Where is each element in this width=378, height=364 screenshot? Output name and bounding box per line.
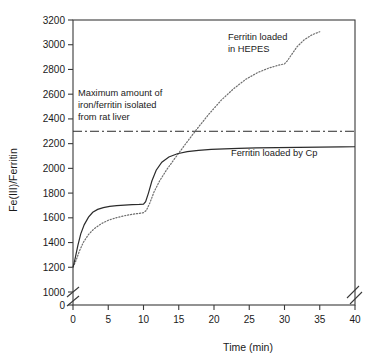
y-tick-label-2000: 2000 xyxy=(43,163,66,174)
annot-max-line3: from rat liver xyxy=(78,112,130,122)
y-tick-label-0: 0 xyxy=(59,300,65,311)
y-tick-label-2800: 2800 xyxy=(43,64,66,75)
x-tick-label-10: 10 xyxy=(138,314,150,325)
annot-hepes-line1: Ferritin loaded xyxy=(228,32,287,42)
y-tick-label-1200: 1200 xyxy=(43,262,66,273)
fe-ferritin-loading-line-chart: 0100012001400160018002000220024002600280… xyxy=(0,0,378,364)
annot-cp-line1: Ferritin loaded by Cp xyxy=(231,148,317,158)
x-axis-title: Time (min) xyxy=(223,341,273,353)
x-axis-tickmarks xyxy=(73,305,355,310)
y-tick-label-2200: 2200 xyxy=(43,138,66,149)
y-tick-label-1800: 1800 xyxy=(43,188,66,199)
x-tick-label-40: 40 xyxy=(349,314,361,325)
x-tick-label-15: 15 xyxy=(173,314,185,325)
y-tick-label-3000: 3000 xyxy=(43,39,66,50)
y-tick-label-2400: 2400 xyxy=(43,113,66,124)
x-tick-label-5: 5 xyxy=(105,314,111,325)
annotation-hepes: Ferritin loaded in HEPES xyxy=(228,32,287,54)
series-ferritin-cp xyxy=(73,147,355,268)
y-axis-tickmarks xyxy=(68,20,73,305)
annot-max-line2: iron/ferritin isolated xyxy=(78,100,157,110)
x-axis-tick-labels: 0510152025303540 xyxy=(70,314,361,325)
annotation-cp: Ferritin loaded by Cp xyxy=(231,148,317,158)
x-tick-label-0: 0 xyxy=(70,314,76,325)
x-tick-label-35: 35 xyxy=(314,314,326,325)
y-axis-tick-labels: 0100012001400160018002000220024002600280… xyxy=(43,15,66,311)
x-tick-label-25: 25 xyxy=(244,314,256,325)
annotation-max-iron: Maximum amount of iron/ferritin isolated… xyxy=(78,88,163,122)
y-tick-label-1000: 1000 xyxy=(43,287,66,298)
plot-frame-rect xyxy=(73,20,355,305)
y-tick-label-1600: 1600 xyxy=(43,212,66,223)
x-tick-label-30: 30 xyxy=(279,314,291,325)
y-tick-label-1400: 1400 xyxy=(43,237,66,248)
plot-frame xyxy=(73,20,355,305)
annot-hepes-line2: in HEPES xyxy=(228,44,269,54)
annot-max-line1: Maximum amount of xyxy=(78,88,163,98)
y-tick-label-3200: 3200 xyxy=(43,15,66,26)
y-axis-title: Fe(III)/Ferritin xyxy=(7,148,19,212)
x-tick-label-20: 20 xyxy=(208,314,220,325)
y-tick-label-2600: 2600 xyxy=(43,89,66,100)
chart-container: 0100012001400160018002000220024002600280… xyxy=(0,0,378,364)
